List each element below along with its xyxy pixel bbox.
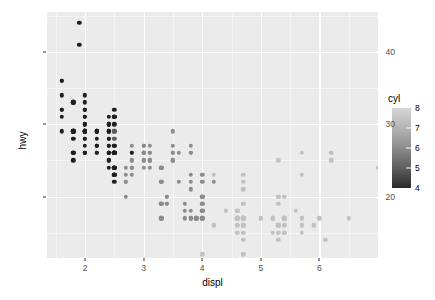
data-point — [182, 209, 186, 213]
data-point — [241, 252, 245, 256]
x-axis-title: displ — [47, 277, 378, 288]
data-point — [200, 252, 204, 256]
data-point — [194, 216, 198, 220]
legend-title: cyl — [388, 93, 400, 104]
data-point — [200, 180, 204, 184]
data-point — [276, 230, 280, 234]
gridline-major-y — [47, 197, 378, 198]
data-point — [83, 100, 87, 104]
data-point — [59, 115, 63, 119]
data-point — [159, 165, 163, 169]
legend-key-label: 4 — [415, 183, 420, 193]
data-point — [200, 216, 204, 220]
data-point — [282, 223, 286, 227]
data-point — [124, 165, 128, 169]
x-tick-label: 3 — [141, 263, 146, 273]
data-point — [241, 202, 245, 206]
data-point — [212, 180, 216, 184]
data-point — [106, 122, 110, 126]
data-point — [241, 187, 245, 191]
y-tick-mark — [43, 124, 46, 125]
ggplot-scatter-chart: displ hwy cyl 45678 20304023456 — [0, 0, 435, 300]
data-point — [223, 209, 227, 213]
gridline-minor-y — [47, 16, 378, 17]
y-axis-title: hwy — [17, 121, 28, 161]
data-point — [95, 144, 99, 148]
data-point — [171, 129, 175, 133]
legend-key-label: 8 — [415, 103, 420, 113]
y-tick-label: 20 — [386, 192, 395, 202]
data-point — [171, 144, 175, 148]
data-point — [112, 129, 116, 133]
y-tick-mark — [43, 51, 46, 52]
data-point — [177, 180, 181, 184]
gridline-minor-x — [290, 12, 291, 258]
data-point — [235, 209, 239, 213]
data-point — [112, 151, 116, 155]
data-point — [112, 107, 116, 111]
data-point — [300, 173, 304, 177]
data-point — [282, 194, 286, 198]
gridline-major-y — [47, 52, 378, 53]
data-point — [241, 238, 245, 242]
data-point — [141, 151, 145, 155]
data-point — [329, 151, 333, 155]
data-point — [241, 223, 245, 227]
gridline-minor-y — [47, 233, 378, 234]
data-point — [276, 223, 280, 227]
gridline-minor-x — [232, 12, 233, 258]
data-point — [124, 173, 128, 177]
data-point — [112, 144, 116, 148]
data-point — [200, 194, 204, 198]
data-point — [259, 216, 263, 220]
data-point — [106, 165, 110, 169]
data-point — [71, 158, 75, 162]
data-point — [294, 209, 298, 213]
gridline-major-x — [261, 12, 262, 258]
gridline-minor-y — [47, 88, 378, 89]
data-point — [147, 165, 151, 169]
data-point — [171, 158, 175, 162]
data-point — [106, 151, 110, 155]
data-point — [300, 223, 304, 227]
data-point — [300, 230, 304, 234]
gridline-major-x — [85, 12, 86, 258]
y-tick-mark — [43, 196, 46, 197]
data-point — [188, 151, 192, 155]
x-tick-mark — [143, 258, 144, 261]
data-point — [106, 115, 110, 119]
data-point — [112, 180, 116, 184]
data-point — [212, 223, 216, 227]
plot-panel — [47, 12, 378, 258]
data-point — [182, 202, 186, 206]
data-point — [112, 122, 116, 126]
data-point — [95, 151, 99, 155]
data-point — [130, 165, 134, 169]
data-point — [106, 136, 110, 140]
gridline-minor-x — [56, 12, 57, 258]
x-tick-mark — [202, 258, 203, 261]
data-point — [300, 216, 304, 220]
data-point — [159, 216, 163, 220]
data-point — [106, 158, 110, 162]
data-point — [270, 230, 274, 234]
data-point — [95, 136, 99, 140]
data-point — [83, 144, 87, 148]
data-point — [165, 202, 169, 206]
data-point — [159, 202, 163, 206]
gridline-major-x — [144, 12, 145, 258]
legend-key-label: 7 — [415, 123, 420, 133]
data-point — [83, 122, 87, 126]
data-point — [83, 136, 87, 140]
data-point — [77, 42, 81, 46]
x-tick-mark — [319, 258, 320, 261]
data-point — [235, 230, 239, 234]
x-tick-label: 5 — [258, 263, 263, 273]
data-point — [83, 93, 87, 97]
data-point — [200, 173, 204, 177]
data-point — [141, 165, 145, 169]
data-point — [124, 194, 128, 198]
data-point — [59, 107, 63, 111]
data-point — [95, 129, 99, 133]
data-point — [317, 216, 321, 220]
